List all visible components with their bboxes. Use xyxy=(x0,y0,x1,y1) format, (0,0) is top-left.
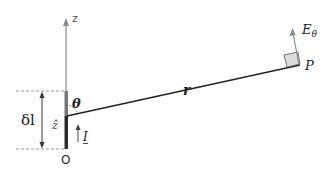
current-element-upper xyxy=(65,91,69,116)
z-axis-label: z xyxy=(72,12,78,25)
point-label: P xyxy=(304,58,314,73)
length-arrow-top-icon xyxy=(40,92,45,99)
e-theta-arrow-icon xyxy=(290,28,296,36)
length-label: δl xyxy=(21,111,35,129)
angle-label: θ xyxy=(72,96,81,111)
current-label: I xyxy=(82,130,88,144)
dipole-diagram: z δl ẑ I O θ r Eθ P xyxy=(0,0,329,178)
e-theta-label: Eθ xyxy=(301,22,318,39)
unit-z-label: ẑ xyxy=(51,119,58,132)
length-arrow-bottom-icon xyxy=(40,142,45,149)
origin-label: O xyxy=(61,153,70,167)
radius-label: r xyxy=(183,82,192,98)
current-element-lower xyxy=(65,116,69,149)
current-arrow-icon xyxy=(76,124,81,130)
z-axis-arrow-icon xyxy=(63,18,69,26)
